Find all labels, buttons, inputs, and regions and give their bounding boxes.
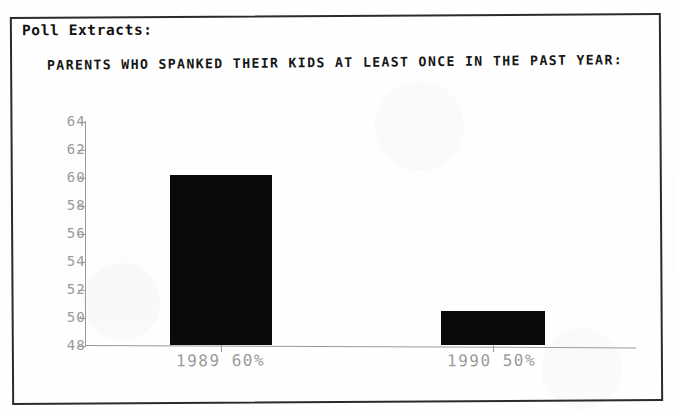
- bar-1989: [170, 175, 272, 345]
- bar-chart: 64 62 60 58 56 54 52 50: [0, 0, 676, 419]
- y-tick-label: 58: [46, 198, 86, 212]
- x-axis-line: [85, 345, 636, 349]
- y-tick-label: 64: [46, 114, 86, 128]
- y-tick-label: 52: [46, 282, 86, 296]
- y-tick-label: 62: [46, 142, 86, 156]
- y-tick-label: 48: [46, 338, 86, 352]
- y-tick-label: 54: [46, 254, 86, 268]
- y-tick-label: 50: [46, 310, 86, 324]
- bar-1990: [441, 311, 545, 345]
- y-tick-label: 60: [46, 170, 86, 184]
- scanned-poll-extract-page: Poll Extracts: PARENTS WHO SPANKED THEIR…: [0, 0, 676, 419]
- y-tick-label: 56: [46, 226, 86, 240]
- x-axis-label-1990: 1990 50%: [447, 351, 536, 371]
- x-axis-label-1989: 1989 60%: [176, 351, 265, 371]
